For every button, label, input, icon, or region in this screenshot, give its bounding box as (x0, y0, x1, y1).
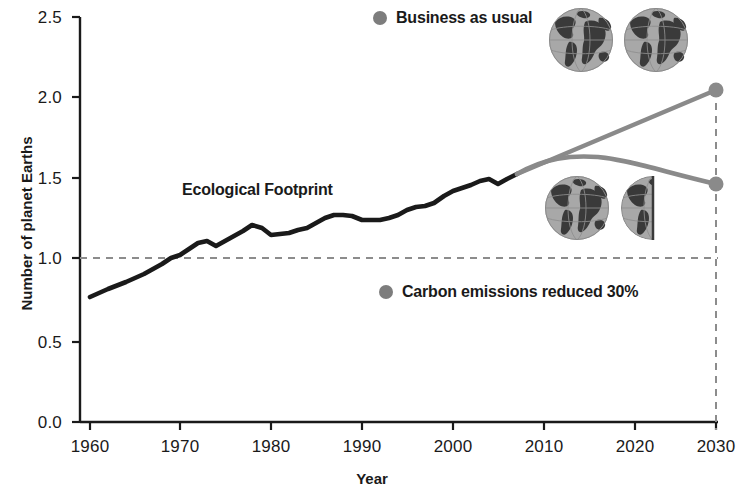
globe-icon (549, 8, 613, 72)
series-line-ecological-footprint (90, 174, 517, 297)
globe-group-carbon-reduced (545, 176, 685, 240)
globe-icon (545, 176, 609, 240)
x-axis-ticks (90, 422, 716, 430)
ecological-footprint-chart: 2.5 2.0 1.5 1.0 0.5 0.0 1960 1970 1980 1… (0, 0, 744, 499)
endpoint-marker-business-as-usual (709, 83, 724, 98)
globe-group-business-as-usual (549, 8, 688, 72)
globe-icon (624, 8, 688, 72)
chart-canvas (0, 0, 744, 499)
endpoint-marker-carbon-reduced (709, 177, 724, 192)
series-line-carbon-reduced (517, 156, 716, 184)
